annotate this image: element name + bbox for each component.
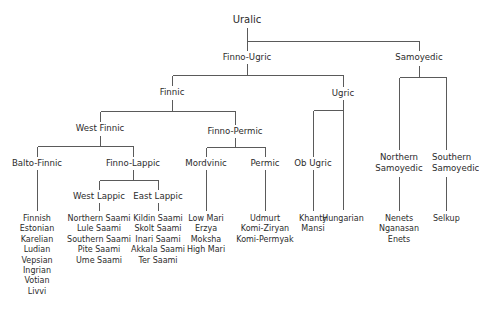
leaf-language: Akkala Saami [131, 245, 185, 255]
leaf-language: Ume Saami [67, 256, 131, 266]
node-label-line: Samoyedic [375, 163, 422, 174]
node-west-lappic: West Lappic [73, 191, 125, 202]
leaf-language: Komi-Ziryan [236, 224, 293, 234]
leaf-language: Lule Saami [67, 224, 131, 234]
node-label-line: Southern [432, 152, 479, 163]
leaf-language: Enets [379, 235, 419, 245]
leaf-group-southern-samoyedic: Selkup [433, 214, 460, 224]
node-ugric: Ugric [332, 88, 354, 99]
leaf-group-hungarian: Hungarian [322, 214, 364, 224]
node-label-line: Samoyedic [432, 163, 479, 174]
node-northern-samoyedic: Northern Samoyedic [375, 152, 422, 174]
leaf-language: Vepsian [20, 256, 55, 266]
leaf-language: Low Mari [187, 214, 225, 224]
leaf-language: Finnish [20, 214, 55, 224]
node-west-finnic: West Finnic [76, 123, 125, 134]
leaf-language: High Mari [187, 245, 225, 255]
leaf-language: Erzya [187, 224, 225, 234]
leaf-group-balto-finnic: Finnish Estonian Karelian Ludian Vepsian… [20, 214, 55, 297]
leaf-language: Ludian [20, 245, 55, 255]
leaf-group-west-lappic: Northern Saami Lule Saami Southern Saami… [67, 214, 131, 266]
leaf-language: Votian [20, 276, 55, 286]
leaf-language: Karelian [20, 235, 55, 245]
leaf-language: Ingrian [20, 266, 55, 276]
node-finno-ugric: Finno-Ugric [223, 52, 272, 63]
leaf-language: Estonian [20, 224, 55, 234]
leaf-group-northern-samoyedic: Nenets Nganasan Enets [379, 214, 419, 245]
node-ob-ugric: Ob Ugric [294, 158, 331, 169]
node-finno-permic: Finno-Permic [207, 126, 262, 137]
leaf-language: Southern Saami [67, 235, 131, 245]
leaf-language: Pite Saami [67, 245, 131, 255]
node-balto-finnic: Balto-Finnic [12, 158, 62, 169]
leaf-language: Nenets [379, 214, 419, 224]
node-permic: Permic [250, 158, 279, 169]
node-uralic: Uralic [233, 14, 262, 25]
leaf-language: Northern Saami [67, 214, 131, 224]
leaf-language: Mansi [299, 224, 327, 234]
leaf-language: Livvi [20, 287, 55, 297]
leaf-language: Selkup [433, 214, 460, 224]
leaf-language: Komi-Permyak [236, 235, 293, 245]
node-mordvinic: Mordvinic [185, 158, 227, 169]
leaf-language: Nganasan [379, 224, 419, 234]
leaf-group-permic: Udmurt Komi-Ziryan Komi-Permyak [236, 214, 293, 245]
leaf-language: Inari Saami [131, 235, 185, 245]
leaf-language: Ter Saami [131, 256, 185, 266]
leaf-language: Moksha [187, 235, 225, 245]
leaf-language: Hungarian [322, 214, 364, 224]
node-finnic: Finnic [160, 87, 185, 98]
node-label-line: Northern [375, 152, 422, 163]
leaf-group-mordvinic: Low Mari Erzya Moksha High Mari [187, 214, 225, 256]
leaf-language: Skolt Saami [131, 224, 185, 234]
node-east-lappic: East Lappic [133, 191, 182, 202]
node-southern-samoyedic: Southern Samoyedic [432, 152, 479, 174]
leaf-language: Kildin Saami [131, 214, 185, 224]
node-samoyedic: Samoyedic [395, 52, 442, 63]
node-finno-lappic: Finno-Lappic [106, 158, 160, 169]
leaf-language: Udmurt [236, 214, 293, 224]
leaf-group-east-lappic: Kildin Saami Skolt Saami Inari Saami Akk… [131, 214, 185, 266]
